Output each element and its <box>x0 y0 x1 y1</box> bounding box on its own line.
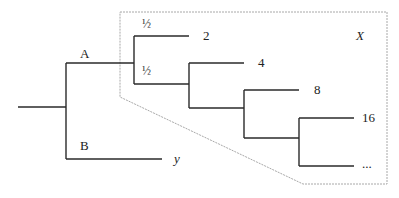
leaf-2-label: 2 <box>203 28 210 43</box>
prob-lower-label: ½ <box>142 64 151 78</box>
leaf-ellipsis-label: ... <box>362 156 372 171</box>
tree-edges <box>18 36 354 166</box>
region-x-outline <box>120 12 387 184</box>
branch-b-label: B <box>80 138 89 153</box>
leaf-16-label: 16 <box>362 110 376 125</box>
leaf-8-label: 8 <box>314 82 321 97</box>
tree-diagram: A B y ½ ½ 2 4 8 16 ... X <box>0 0 399 198</box>
region-x-label: X <box>355 28 365 43</box>
leaf-y-label: y <box>172 151 180 166</box>
prob-upper-label: ½ <box>142 17 151 31</box>
branch-a-label: A <box>80 46 90 61</box>
leaf-4-label: 4 <box>258 55 265 70</box>
